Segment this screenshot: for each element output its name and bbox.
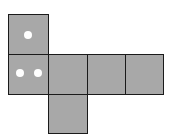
dot	[24, 31, 32, 39]
face-row-4	[125, 54, 164, 95]
face-row-1-two-dots	[8, 54, 49, 95]
face-top-one-dot	[8, 14, 49, 55]
face-row-3	[87, 54, 126, 95]
face-bottom	[48, 94, 88, 134]
dot	[34, 69, 42, 77]
dot	[16, 69, 24, 77]
face-row-2	[48, 54, 88, 95]
